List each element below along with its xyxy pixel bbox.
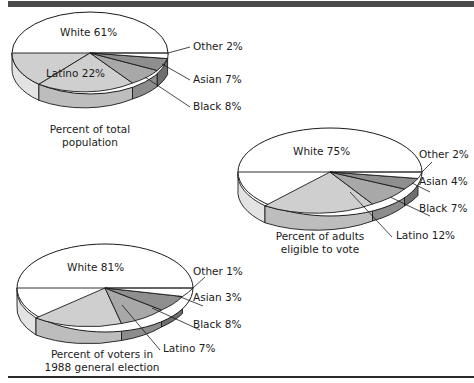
figure-canvas: White 61% Latino 22% Other 2% Asian 7% B… — [0, 0, 474, 383]
pie3-callout-other: Other 1% — [193, 265, 243, 277]
pie3-callout-asian: Asian 3% — [193, 291, 242, 303]
pie2-callout-latino: Latino 12% — [396, 229, 455, 241]
pie2-callout-other: Other 2% — [419, 148, 469, 160]
pie2-callout-asian: Asian 4% — [419, 175, 468, 187]
pie3-caption-line2: 1988 general election — [44, 361, 159, 373]
top-rule — [8, 1, 474, 7]
pie3-caption-line1: Percent of voters in — [51, 348, 153, 360]
pie2-caption-line1: Percent of adults — [276, 230, 365, 242]
pie1-caption-line2: population — [62, 136, 118, 148]
pie-charts-figure: White 61% Latino 22% Other 2% Asian 7% B… — [0, 0, 474, 383]
pie1-callout-other: Other 2% — [193, 40, 243, 52]
pie2-caption-line2: eligible to vote — [281, 243, 359, 255]
pie3-label-white: White 81% — [67, 261, 124, 273]
pie2-label-white: White 75% — [293, 145, 350, 157]
pie1-label-white: White 61% — [60, 26, 117, 38]
pie1-callout-black: Black 8% — [193, 100, 241, 112]
pie1-callout-asian: Asian 7% — [193, 73, 242, 85]
pie3-callout-latino: Latino 7% — [163, 342, 215, 354]
pie1-caption-line1: Percent of total — [50, 123, 130, 135]
pie3-callout-black: Black 8% — [193, 318, 241, 330]
pie2-callout-black: Black 7% — [419, 202, 467, 214]
bottom-rule — [8, 376, 474, 378]
pie1-label-latino: Latino 22% — [46, 67, 105, 79]
